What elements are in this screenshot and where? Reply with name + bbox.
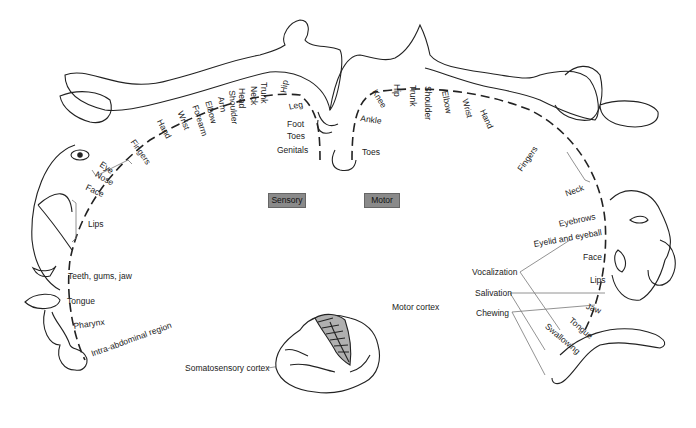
- sensory-label-teeth-gums-jaw: Teeth, gums, jaw: [68, 272, 132, 281]
- sensory-label-arm: Arm: [217, 96, 228, 113]
- motor-hand: [555, 66, 658, 127]
- chewing-leader-2: [512, 312, 545, 375]
- function-label-salivation: Salivation: [475, 289, 512, 298]
- sensory-label-genitals: Genitals: [277, 146, 308, 155]
- sensory-label-lips: Lips: [88, 220, 104, 229]
- brain: [276, 314, 380, 393]
- sensory-hand: [60, 92, 111, 123]
- brain-label-motor-cortex: Motor cortex: [392, 303, 439, 312]
- motor-mouth: [648, 240, 675, 285]
- chewing-leader-1: [512, 305, 595, 312]
- sensory-label-tongue: Tongue: [67, 297, 95, 306]
- motor-eye: [630, 216, 648, 223]
- sensory-jaw: [33, 266, 56, 277]
- function-label-chewing: Chewing: [476, 309, 509, 318]
- motor-label-toes: Toes: [362, 148, 380, 157]
- brain-label-somatosensory-cortex: Somatosensory cortex: [185, 364, 270, 373]
- function-label-vocalization: Vocalization: [472, 268, 517, 277]
- lips-bracket: [72, 200, 76, 242]
- sensory-label-shoulder: Shoulder: [228, 90, 239, 125]
- sensory-label-toes: Toes: [287, 132, 305, 141]
- fingers-bracket-right: [567, 152, 590, 182]
- sensory-dashed-arc: [69, 94, 320, 360]
- motor-label-trunk: Trunk: [409, 85, 418, 106]
- sensory-tongue: [25, 294, 60, 308]
- motor-label-face: Face: [583, 253, 602, 262]
- sensory-lips: [38, 194, 72, 250]
- motor-ear: [615, 250, 626, 272]
- motor-label-lips: Lips: [590, 276, 606, 285]
- motor-label-box: Motor: [364, 193, 400, 208]
- sensory-label-foot: Foot: [287, 120, 304, 129]
- sensory-label-neck: Neck: [250, 86, 259, 105]
- sensory-label-hip: Hip: [279, 79, 290, 93]
- motor-label-shoulder: Shoulder: [424, 86, 433, 120]
- sensory-foot: [318, 112, 338, 133]
- sensory-label-trunk: Trunk: [260, 82, 269, 103]
- motor-label-hip: Hip: [393, 84, 402, 97]
- vocalization-leader-2: [520, 272, 560, 330]
- motor-head: [610, 191, 670, 301]
- sensory-label-head: Head: [238, 88, 247, 108]
- sensory-label-box: Sensory: [268, 193, 306, 208]
